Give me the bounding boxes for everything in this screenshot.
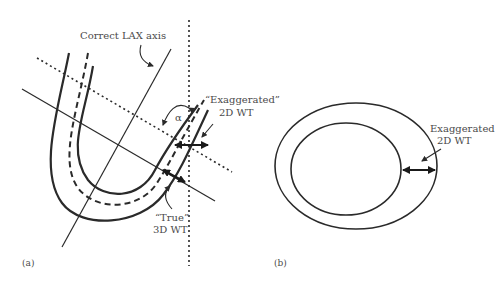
alpha-symbol: α	[175, 112, 182, 123]
true-3d-wt-label-line1: “True”	[155, 212, 189, 223]
panel-b-exaggerated-label-line1: Exaggerated	[430, 123, 495, 134]
panel-b: Exaggerated 2D WT (b)	[274, 103, 495, 268]
exaggerated-2d-wt-label-line1: “Exaggerated”	[205, 94, 280, 105]
panel-b-label-pointer	[422, 149, 441, 161]
panel-a-label: (a)	[22, 258, 34, 268]
true-label-pointer	[166, 186, 172, 209]
lax-axis-label: Correct LAX axis	[80, 30, 166, 41]
exaggerated-label-pointer	[202, 124, 213, 137]
panel-a: α Correct LAX axis “Exaggerated” 2D WT “…	[22, 20, 280, 268]
panel-b-label: (b)	[274, 258, 287, 268]
diagram-canvas: α Correct LAX axis “Exaggerated” 2D WT “…	[0, 0, 503, 283]
exaggerated-2d-wt-label-line2: 2D WT	[219, 107, 254, 118]
true-3d-wt-label-line2: 3D WT	[153, 224, 188, 235]
lax-axis-pointer	[140, 45, 153, 66]
inner-wall-curve	[78, 66, 198, 194]
inner-wall-ellipse	[291, 123, 401, 215]
panel-b-exaggerated-label-line2: 2D WT	[437, 135, 472, 146]
outer-wall-ellipse	[275, 103, 437, 229]
